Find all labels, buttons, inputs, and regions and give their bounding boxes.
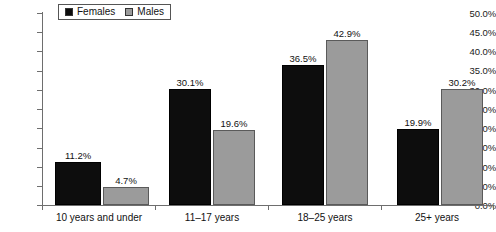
legend-label-females: Females: [77, 7, 115, 17]
bar-label-males-10-and-under: 4.7%: [103, 176, 149, 186]
legend-item-males[interactable]: Males: [125, 7, 164, 17]
legend-label-males: Males: [137, 7, 164, 17]
xtick-mark-0: [42, 206, 43, 210]
ytick-label-35: 35.0%: [460, 66, 496, 75]
bar-females-11-17[interactable]: [169, 89, 211, 205]
xtick-mark-2: [268, 206, 269, 210]
category-label-3: 25+ years: [381, 212, 493, 223]
bar-males-11-17[interactable]: [213, 130, 255, 205]
ytick-label-50: 50.0%: [460, 9, 496, 18]
bar-females-10-and-under[interactable]: [55, 162, 101, 205]
ytick-label-40: 40.0%: [460, 47, 496, 56]
y-axis-line: [42, 12, 43, 206]
bar-label-females-18-25: 36.5%: [279, 54, 327, 64]
legend: Females Males: [58, 4, 171, 20]
bar-label-females-10-and-under: 11.2%: [55, 151, 101, 161]
bar-females-25-plus[interactable]: [397, 129, 439, 205]
bar-males-25-plus[interactable]: [441, 89, 483, 205]
category-label-0: 10 years and under: [43, 212, 155, 223]
legend-swatch-males-icon: [125, 8, 133, 16]
xtick-mark-1: [155, 206, 156, 210]
bar-chart: 50.0% 45.0% 40.0% 35.0% 30.0% 25.0% 20.0…: [0, 0, 496, 232]
category-label-1: 11–17 years: [156, 212, 268, 223]
bar-males-18-25[interactable]: [326, 40, 368, 205]
legend-swatch-females-icon: [65, 8, 73, 16]
xtick-mark-3: [381, 206, 382, 210]
bar-label-males-11-17: 19.6%: [210, 119, 258, 129]
bar-label-females-25-plus: 19.9%: [394, 118, 442, 128]
ytick-label-45: 45.0%: [460, 28, 496, 37]
bar-males-10-and-under[interactable]: [103, 187, 149, 205]
category-label-2: 18–25 years: [269, 212, 381, 223]
bar-females-18-25[interactable]: [282, 65, 324, 205]
bar-label-males-25-plus: 30.2%: [438, 78, 486, 88]
legend-item-females[interactable]: Females: [65, 7, 115, 17]
bar-label-males-18-25: 42.9%: [323, 29, 371, 39]
xtick-mark-4: [493, 206, 494, 210]
bar-label-females-11-17: 30.1%: [166, 78, 214, 88]
